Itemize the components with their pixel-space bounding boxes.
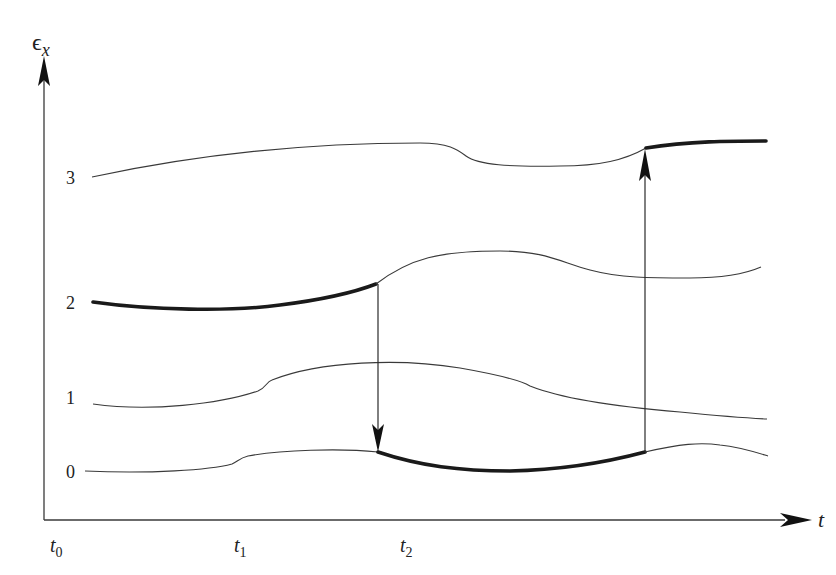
level-label-3: 3: [66, 168, 75, 188]
level-0-curve: [85, 450, 378, 472]
time-label-t0: t0: [50, 534, 63, 560]
level-0-highlight: [378, 452, 645, 471]
time-label-t2: t2: [400, 534, 413, 560]
x-axis-label: t: [818, 507, 825, 532]
level-2-curve: [376, 251, 761, 284]
level-3-curve: [92, 143, 646, 177]
time-label-t1: t1: [234, 534, 247, 560]
level-label-2: 2: [66, 293, 75, 313]
level-3-highlight: [646, 141, 766, 148]
level-1-curve: [93, 362, 767, 419]
y-axis-label: ϵx: [32, 29, 50, 60]
level-0-curve-end: [645, 444, 768, 456]
energy-level-diagram: ϵx t 3 2 1 0 t0 t1 t2: [0, 0, 836, 575]
level-label-1: 1: [66, 388, 75, 408]
level-label-0: 0: [66, 462, 75, 482]
level-2-highlight: [93, 284, 376, 309]
